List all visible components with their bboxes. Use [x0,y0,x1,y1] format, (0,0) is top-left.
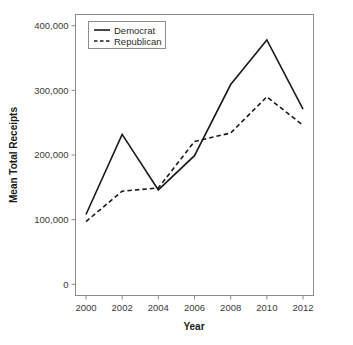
x-tick-label: 2006 [184,302,205,313]
y-axis-ticks [72,26,76,285]
x-tick-label: 2008 [220,302,241,313]
x-axis-title: Year [183,321,204,332]
y-tick-label: 100,000 [34,214,68,225]
x-tick-label: 2004 [148,302,169,313]
line-chart: 0100,000200,000300,000400,000 2000200220… [0,0,353,345]
x-tick-label: 2012 [292,302,313,313]
y-axis-title: Mean Total Receipts [8,107,19,203]
y-tick-label: 200,000 [34,149,68,160]
x-tick-label: 2000 [75,302,96,313]
chart-legend: Democrat Republican [89,22,166,49]
legend-label-republican: Republican [114,36,162,47]
series-line-democrat [86,40,303,215]
data-series-layer [86,40,303,222]
series-line-republican [86,97,303,222]
legend-label-democrat: Democrat [114,25,156,36]
y-tick-label: 300,000 [34,85,68,96]
x-tick-label: 2010 [256,302,277,313]
chart-figure: 0100,000200,000300,000400,000 2000200220… [0,0,353,345]
y-axis-tick-labels: 0100,000200,000300,000400,000 [34,20,68,290]
y-tick-label: 0 [63,279,68,290]
x-axis-ticks [86,296,303,300]
x-tick-label: 2002 [112,302,133,313]
x-axis-tick-labels: 2000200220042006200820102012 [75,302,313,313]
y-tick-label: 400,000 [34,20,68,31]
